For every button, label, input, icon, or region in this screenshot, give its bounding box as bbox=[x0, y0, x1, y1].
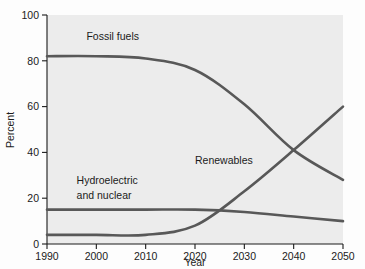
y-axis-tick-labels: 020406080100 bbox=[21, 9, 39, 250]
y-tick-label-20: 20 bbox=[27, 192, 39, 204]
series-label-renewables: Renewables bbox=[195, 154, 253, 166]
y-tick-label-60: 60 bbox=[27, 100, 39, 112]
x-axis-title: Year bbox=[184, 256, 206, 268]
series-label-hydroelectric-line2: and nuclear bbox=[77, 189, 132, 201]
y-axis-title: Percent bbox=[4, 112, 16, 148]
chart-figure: 020406080100 199020002010202020302040205… bbox=[0, 0, 365, 269]
series-label-hydroelectric-line1: Hydroelectric bbox=[77, 174, 138, 186]
y-tick-label-80: 80 bbox=[27, 55, 39, 67]
y-tick-label-100: 100 bbox=[21, 9, 39, 21]
x-axis-ticks bbox=[47, 244, 343, 249]
y-tick-label-0: 0 bbox=[33, 238, 39, 250]
x-tick-label-2000: 2000 bbox=[85, 250, 109, 262]
line-chart: 020406080100 199020002010202020302040205… bbox=[0, 0, 365, 269]
series-label-fossil-fuels: Fossil fuels bbox=[86, 30, 139, 42]
y-tick-label-40: 40 bbox=[27, 146, 39, 158]
x-tick-label-2030: 2030 bbox=[233, 250, 257, 262]
x-tick-label-2010: 2010 bbox=[134, 250, 158, 262]
x-tick-label-2040: 2040 bbox=[282, 250, 306, 262]
x-tick-label-1990: 1990 bbox=[35, 250, 59, 262]
x-tick-label-2050: 2050 bbox=[331, 250, 355, 262]
